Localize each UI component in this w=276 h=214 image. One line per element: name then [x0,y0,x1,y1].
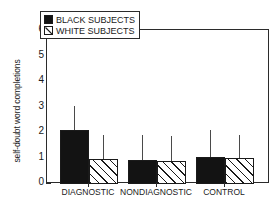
y-tick-label-0: 0 [20,177,44,187]
legend-item-white-subjects: WHITE SUBJECTS [44,25,135,36]
bar-chart-figure: self-doubt word completions 6 5 4 3 2 1 … [0,0,276,214]
x-tick-label-nondiagnostic: NONDIAGNOSTIC [114,187,198,197]
error-bar-white-diagnostic [103,135,104,159]
bar-black-control [196,157,225,184]
legend-label-black-subjects: BLACK SUBJECTS [56,15,135,25]
plot-area [46,29,269,183]
error-bar-white-nondiagnostic [171,136,172,161]
legend-label-white-subjects: WHITE SUBJECTS [56,26,135,36]
chart-legend: BLACK SUBJECTS WHITE SUBJECTS [40,11,140,39]
error-bar-white-control [239,135,240,158]
y-tick-mark-0 [46,183,51,184]
legend-item-black-subjects: BLACK SUBJECTS [44,14,135,25]
y-tick-label-3: 3 [20,101,44,111]
error-bar-black-nondiagnostic [142,135,143,160]
y-tick-label-1: 1 [20,152,44,162]
bar-black-nondiagnostic [128,160,157,184]
y-tick-label-4: 4 [20,75,44,85]
y-tick-label-5: 5 [20,50,44,60]
error-bar-black-control [210,130,211,157]
bar-white-nondiagnostic [157,161,186,184]
bar-white-diagnostic [89,159,118,184]
diagonal-hatch-swatch-icon [44,26,53,35]
y-tick-label-2: 2 [20,126,44,136]
x-tick-label-diagnostic: DIAGNOSTIC [53,187,123,197]
x-tick-label-control: CONTROL [192,187,256,197]
solid-black-swatch-icon [44,15,53,24]
bar-white-control [225,158,254,184]
bar-black-diagnostic [60,130,89,184]
